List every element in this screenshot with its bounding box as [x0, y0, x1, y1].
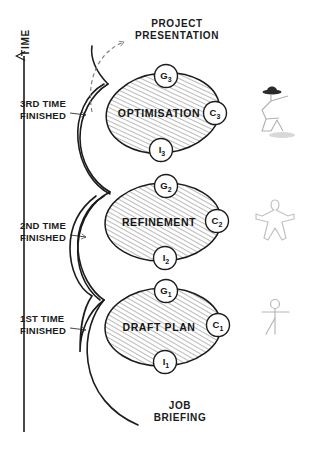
node-label-g1: G1 [156, 285, 176, 298]
milestone-label-2nd: 2ND TIME FINISHED [20, 220, 66, 243]
stage-label-optimisation: OPTIMISATION [104, 107, 214, 119]
node-index: 1 [219, 325, 223, 332]
spiral-segment-4 [80, 84, 110, 192]
node-label-i1: I1 [156, 356, 176, 369]
milestone-label-3rd: 3RD TIME FINISHED [20, 98, 66, 121]
node-letter: G [160, 180, 167, 191]
milestone-label-1st: 1ST TIME FINISHED [20, 313, 66, 336]
node-index: 1 [165, 362, 169, 369]
node-letter: G [160, 70, 167, 81]
node-index: 3 [216, 113, 220, 120]
node-index: 1 [168, 291, 172, 298]
stick-figure-icon [262, 300, 289, 335]
node-label-g3: G3 [156, 70, 176, 83]
node-index: 3 [168, 76, 172, 83]
node-index: 2 [218, 221, 222, 228]
stage-label-refinement: REFINEMENT [104, 216, 214, 228]
hat-figure-icon [262, 87, 295, 139]
spiral-segment-top [92, 46, 108, 84]
hat-crown-icon [267, 87, 277, 92]
stage-label-draft-plan: DRAFT PLAN [104, 321, 214, 333]
time-axis-label: TIME [20, 42, 31, 56]
node-label-i3: I3 [152, 144, 172, 157]
star-figure-icon [256, 200, 294, 240]
node-label-c1: C1 [208, 319, 228, 332]
node-index: 3 [161, 150, 165, 157]
node-label-i2: I2 [156, 252, 176, 265]
job-briefing-label: JOB BRIEFING [140, 400, 220, 424]
node-index: 2 [168, 186, 172, 193]
node-index: 2 [165, 258, 169, 265]
figure-shadow-3 [269, 132, 295, 138]
node-label-g2: G2 [156, 180, 176, 193]
node-letter: G [160, 285, 167, 296]
node-label-c2: C2 [207, 215, 227, 228]
node-label-c3: C3 [205, 107, 225, 120]
project-presentation-label: PROJECT PRESENTATION [118, 18, 236, 42]
